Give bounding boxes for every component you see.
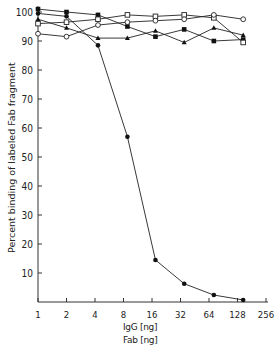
open-square-marker [64, 20, 69, 25]
open-square-marker [96, 17, 101, 22]
chart-canvas: 1020304050607080901001248163264128256 [0, 0, 275, 352]
y-tick-label: 90 [22, 36, 34, 47]
filled-square-marker [153, 34, 158, 39]
open-circle-marker [182, 17, 187, 22]
y-tick-label: 80 [22, 65, 34, 76]
filled-square-marker [64, 10, 69, 15]
y-tick-label: 10 [22, 268, 34, 279]
open-square-marker [241, 40, 246, 45]
filled-square-marker [212, 39, 217, 44]
binding-chart: 1020304050607080901001248163264128256 [0, 0, 275, 352]
filled-square-marker [36, 7, 41, 12]
filled-circle-marker [96, 43, 101, 48]
open-circle-marker [96, 23, 101, 28]
filled-circle-marker [212, 293, 217, 298]
open-square-marker [125, 13, 130, 18]
x-tick-label: 128 [229, 309, 245, 320]
filled-triangle-marker [211, 25, 216, 29]
x-axis-label-fab: Fab [ng] [123, 335, 157, 345]
open-square-marker [36, 21, 41, 26]
x-axis-label-igg: IgG [ng] [123, 322, 157, 332]
y-tick-label: 100 [16, 7, 33, 18]
x-tick-label: 32 [175, 309, 186, 320]
filled-circle-marker [64, 14, 69, 19]
filled-circle-marker [241, 298, 246, 303]
y-tick-label: 70 [22, 94, 34, 105]
y-tick-label: 20 [22, 239, 34, 250]
x-tick-label: 256 [258, 309, 274, 320]
open-circle-marker [125, 20, 130, 25]
open-circle-marker [241, 17, 246, 22]
y-axis-label: Percent binding of labeled Fab fragment [6, 62, 17, 253]
y-tick-label: 50 [22, 152, 34, 163]
filled-circle-marker [153, 258, 158, 263]
x-tick-label: 2 [64, 309, 69, 320]
x-tick-label: 1 [35, 309, 40, 320]
open-circle-marker [211, 13, 216, 18]
filled-triangle-marker [36, 17, 41, 21]
x-tick-label: 16 [147, 309, 158, 320]
open-circle-marker [64, 34, 69, 39]
filled-circle-marker [182, 281, 187, 286]
y-tick-label: 60 [22, 123, 34, 134]
filled-circle-marker [36, 11, 41, 16]
series-line-filled-circle [38, 13, 243, 300]
open-circle-marker [153, 18, 158, 23]
y-tick-label: 30 [22, 210, 34, 221]
y-tick-label: 40 [22, 181, 34, 192]
x-tick-label: 4 [92, 309, 97, 320]
filled-square-marker [182, 27, 187, 32]
x-tick-label: 64 [204, 309, 215, 320]
x-tick-label: 8 [121, 309, 126, 320]
filled-circle-marker [125, 134, 130, 139]
open-circle-marker [36, 31, 41, 36]
filled-triangle-marker [153, 28, 158, 32]
